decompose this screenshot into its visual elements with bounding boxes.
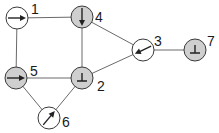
node-5: 5 — [5, 63, 38, 89]
node-4: 4 — [71, 6, 103, 28]
node-label: 2 — [97, 78, 105, 94]
node-label: 7 — [207, 33, 215, 49]
node-2: 2 — [71, 67, 105, 94]
node-label: 5 — [30, 63, 38, 79]
node-label: 6 — [62, 114, 70, 130]
node-6: 6 — [38, 107, 70, 130]
node-label: 3 — [154, 33, 162, 49]
graph-diagram: 1234567 — [0, 0, 219, 133]
node-label: 4 — [95, 9, 103, 25]
node-3: 3 — [132, 33, 162, 61]
node-1: 1 — [6, 1, 39, 29]
node-label: 1 — [31, 1, 39, 17]
node-7: 7 — [184, 33, 215, 61]
edges-layer — [16, 17, 195, 118]
